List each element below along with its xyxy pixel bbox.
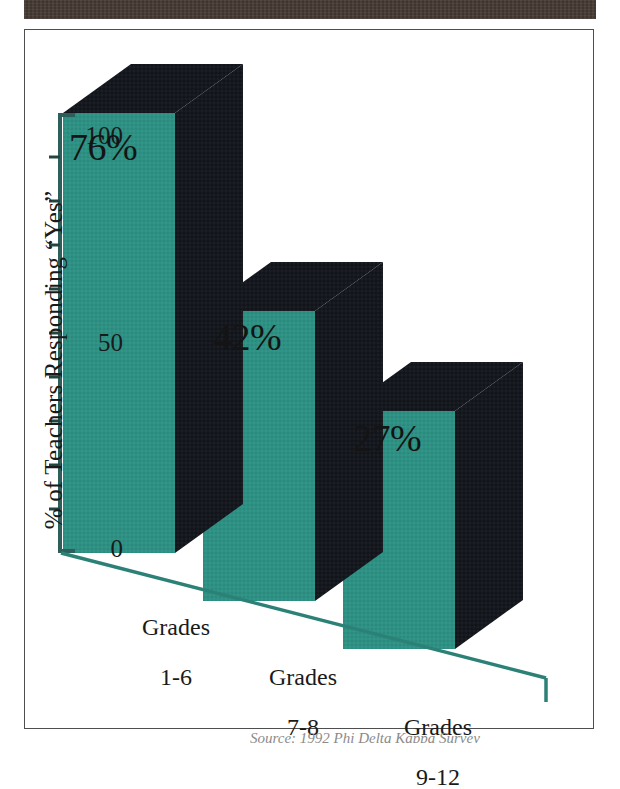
source-caption: Source: 1992 Phi Delta Kappa Survey — [250, 731, 610, 743]
y-axis-title: % of Teachers Responding “Yes” — [40, 125, 68, 595]
band-texture — [24, 0, 596, 19]
source-caption-text: Source: 1992 Phi Delta Kappa Survey — [250, 731, 610, 743]
cat-1-line-1: Grades — [269, 664, 337, 690]
bar-1-side-face — [175, 64, 243, 553]
y-tick-label-50: 50 — [61, 329, 123, 357]
cat-0-line-2: 1-6 — [160, 664, 192, 690]
bar-value-label-grades-7-8: 42% — [213, 315, 281, 359]
x-category-label-grades-7-8: Grades 7-8 — [215, 640, 355, 765]
cat-2-line-2: 9-12 — [416, 764, 460, 789]
bar-value-label-grades-1-6: 76% — [69, 125, 137, 169]
top-decorative-band — [24, 0, 596, 19]
bar-3-side-face — [455, 362, 523, 649]
cat-0-line-1: Grades — [142, 614, 210, 640]
y-tick-label-0: 0 — [61, 535, 123, 563]
chart-frame: % of Teachers Responding “Yes” 100 50 0 … — [24, 29, 594, 729]
x-category-label-grades-1-6: Grades 1-6 — [88, 590, 228, 715]
bar-chart-plot: % of Teachers Responding “Yes” 100 50 0 … — [25, 30, 595, 730]
bar-value-label-grades-9-12: 27% — [353, 416, 421, 460]
